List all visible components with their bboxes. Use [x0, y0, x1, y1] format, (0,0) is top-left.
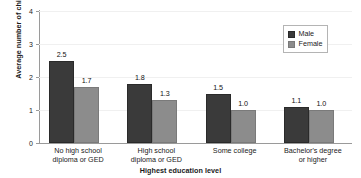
y-axis-title: Average number of children	[14, 0, 23, 101]
legend-swatch-icon	[288, 31, 295, 38]
bar-value-label: 1.3	[148, 90, 181, 97]
bar-male	[284, 107, 309, 143]
category-label: Bachelor's degree or higher	[268, 146, 358, 164]
bar-value-label: 2.5	[45, 51, 78, 58]
bar-value-label: 1.5	[202, 84, 235, 91]
category-label: Some college	[190, 146, 280, 155]
legend-swatch-icon	[288, 41, 295, 48]
y-axis-tick-label: 3	[22, 41, 33, 48]
bar-female	[152, 100, 177, 143]
x-axis-title: Highest education level	[0, 166, 361, 175]
bar-group: 1.81.3	[117, 11, 195, 143]
y-axis-tick-mark	[36, 143, 39, 144]
x-axis-line	[39, 143, 352, 144]
category-label: No high school diploma or GED	[33, 146, 123, 164]
y-axis-tick-label: 2	[22, 74, 33, 81]
bar-group: 1.51.0	[196, 11, 274, 143]
legend-item-male: Male	[288, 29, 322, 39]
bar-group: 2.51.7	[39, 11, 117, 143]
category-label: High school diploma or GED	[111, 146, 201, 164]
bar-female	[231, 110, 256, 143]
bar-value-label: 1.7	[70, 77, 103, 84]
legend: MaleFemale	[283, 25, 328, 53]
y-axis-tick-label: 1	[22, 107, 33, 114]
y-axis-tick-label: 4	[22, 8, 33, 15]
bar-chart: Average number of children 01234 2.51.71…	[0, 0, 361, 178]
bar-female	[74, 87, 99, 143]
legend-item-female: Female	[288, 39, 322, 49]
y-axis-tick-label: 0	[22, 140, 33, 147]
legend-label: Female	[299, 40, 323, 47]
bar-value-label: 1.8	[123, 74, 156, 81]
bar-value-label: 1.0	[305, 100, 338, 107]
bar-female	[309, 110, 334, 143]
bar-value-label: 1.0	[227, 100, 260, 107]
legend-label: Male	[299, 30, 315, 37]
bar-male	[49, 61, 74, 144]
